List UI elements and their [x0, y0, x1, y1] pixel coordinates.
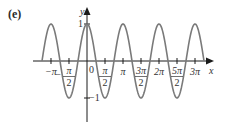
x-tick-label: π2 [99, 65, 111, 88]
y-axis-label: y [79, 6, 85, 17]
x-tick-label: 5π2 [171, 65, 183, 88]
y-tick-label-1: 1 [78, 18, 83, 29]
svg-text:3π: 3π [189, 66, 201, 77]
x-tick-label: 2π [154, 66, 165, 77]
svg-text:2: 2 [139, 77, 144, 88]
svg-text:−: − [55, 69, 61, 80]
x-tick-label-0: 0 [89, 64, 94, 75]
svg-text:3π: 3π [135, 65, 147, 76]
svg-text:π: π [120, 66, 126, 77]
svg-text:2: 2 [66, 77, 71, 88]
svg-text:5π: 5π [172, 65, 183, 76]
chart: y x 1 −1 −ππ2−0π2π3π22π5π23π [0, 0, 226, 124]
x-tick-label: 3π2 [135, 65, 147, 88]
svg-text:2: 2 [175, 77, 180, 88]
y-axis-arrow-icon [84, 7, 91, 15]
x-tick-labels: −ππ2−0π2π3π22π5π23π [45, 64, 201, 88]
y-tick-label-neg1: −1 [89, 92, 100, 103]
svg-text:2: 2 [103, 77, 108, 88]
x-tick-label: 3π [189, 66, 201, 77]
x-axis-label: x [208, 65, 214, 76]
x-axis-arrow-icon [206, 58, 214, 65]
x-tick-label: π2− [55, 65, 75, 88]
svg-text:2π: 2π [154, 66, 165, 77]
svg-text:π: π [102, 65, 108, 76]
x-tick-label: π [120, 66, 126, 77]
svg-text:π: π [66, 65, 72, 76]
